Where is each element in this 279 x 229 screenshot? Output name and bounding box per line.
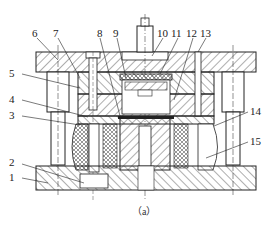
mold-cross-section-drawing — [0, 0, 279, 229]
center-punch — [120, 118, 170, 170]
punch-holder — [78, 72, 214, 116]
part-label-3: 3 — [9, 110, 15, 121]
part-label-2: 2 — [9, 157, 15, 168]
part-label-5: 5 — [9, 68, 15, 79]
lower-die-plate — [36, 166, 256, 190]
part-label-10: 10 — [157, 28, 168, 39]
part-label-9: 9 — [113, 28, 119, 39]
pin-right — [195, 52, 201, 116]
upper-die-plate — [36, 52, 256, 72]
part-label-12: 12 — [186, 28, 197, 39]
part-label-14: 14 — [250, 106, 261, 117]
part-label-15: 15 — [250, 136, 261, 147]
part-label-11: 11 — [171, 28, 182, 39]
part-label-7: 7 — [53, 28, 59, 39]
part-label-13: 13 — [200, 28, 211, 39]
part-label-8: 8 — [97, 28, 103, 39]
figure-caption: （a） — [132, 203, 156, 218]
part-label-1: 1 — [9, 172, 15, 183]
part-label-4: 4 — [9, 94, 15, 105]
part-label-6: 6 — [32, 28, 38, 39]
